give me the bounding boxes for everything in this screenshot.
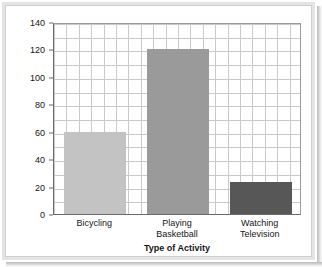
y-axis-tick-label: 120 [30,45,45,55]
y-axis-tick-label: 140 [30,18,45,28]
figure-shadow-right [317,6,322,267]
x-axis-label: Bicycling [53,218,136,229]
plot-area [53,23,301,215]
y-axis-tick-label: 80 [35,100,45,110]
y-axis-tick-label: 40 [35,155,45,165]
x-axis-label-line: Television [240,229,280,239]
bar-bicycling[interactable] [64,132,126,214]
y-axis-tick-label: 0 [40,210,45,220]
x-axis-label-line: Basketball [156,229,198,239]
bar-watching-television[interactable] [230,182,292,214]
x-axis-label-line: Bicycling [77,218,113,228]
y-axis-ticks: 020406080100120140 [5,23,51,215]
chart-figure: Calories Burned in 30 Minutes 0204060801… [0,0,322,267]
y-axis-tick-label: 20 [35,183,45,193]
x-axis-label: PlayingBasketball [136,218,219,239]
chart-card: Calories Burned in 30 Minutes 0204060801… [2,2,315,260]
x-axis-label: WatchingTelevision [218,218,301,239]
x-axis-label-line: Playing [162,218,192,228]
y-axis-tick-label: 60 [35,128,45,138]
x-axis-label-line: Watching [241,218,278,228]
x-axis-title: Type of Activity [53,243,301,253]
x-axis-labels: BicyclingPlayingBasketballWatchingTelevi… [53,218,301,246]
bar-playing-basketball[interactable] [147,49,209,214]
y-axis-tick-label: 100 [30,73,45,83]
figure-shadow-bottom [6,262,322,267]
